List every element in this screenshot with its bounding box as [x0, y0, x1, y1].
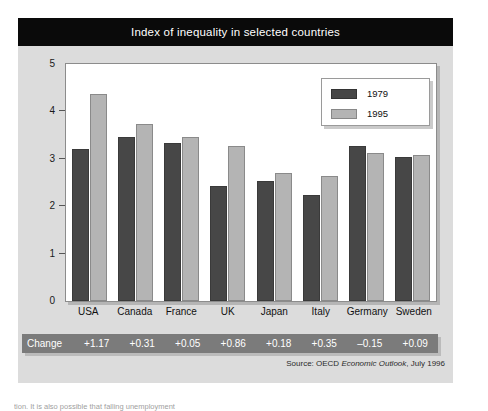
bar-uk-1979	[210, 186, 227, 301]
legend-entry: 1979	[331, 85, 429, 102]
y-axis-tick-label: 3	[49, 152, 55, 163]
bar-japan-1979	[257, 181, 274, 301]
change-row-label: Change	[22, 338, 74, 349]
bar-france-1995	[182, 137, 199, 301]
x-axis-label: USA	[67, 306, 109, 317]
body-text-fragment: tion. It is also possible that falling u…	[14, 402, 434, 411]
change-value: +1.17	[76, 338, 118, 349]
x-axis-labels: USACanadaFranceUKJapanItalyGermanySweden	[65, 306, 437, 326]
plot-wrapper: 012345 USACanadaFranceUKJapanItalyGerman…	[18, 46, 453, 346]
x-axis-label: Canada	[114, 306, 156, 317]
bar-germany-1979	[349, 146, 366, 301]
change-value: +0.35	[303, 338, 345, 349]
chart-legend: 19791995	[321, 78, 430, 126]
x-axis-label: Germany	[346, 306, 388, 317]
y-axis: 012345	[18, 46, 65, 319]
bar-italy-1979	[303, 195, 320, 301]
y-axis-tick-label: 0	[49, 295, 55, 306]
change-value: +0.86	[212, 338, 254, 349]
change-value: +0.09	[394, 338, 436, 349]
legend-label: 1995	[367, 108, 388, 119]
bar-sweden-1979	[395, 157, 412, 301]
chart-title-bar: Index of inequality in selected countrie…	[18, 18, 453, 46]
bar-uk-1995	[228, 146, 245, 301]
bar-italy-1995	[321, 176, 338, 301]
page-title: Index of inequality in selected countrie…	[131, 26, 340, 38]
source-publication: Economic Outlook	[341, 359, 406, 368]
y-axis-tick-label: 2	[49, 200, 55, 211]
change-value: +0.31	[121, 338, 163, 349]
change-row: Change +1.17+0.31+0.05+0.86+0.18+0.35–0.…	[22, 334, 438, 353]
change-value: –0.15	[349, 338, 391, 349]
x-axis-label: France	[160, 306, 202, 317]
bar-group	[257, 64, 292, 301]
bar-group	[118, 64, 153, 301]
bar-canada-1995	[136, 124, 153, 301]
legend-swatch-icon	[331, 89, 357, 99]
y-axis-tick-label: 5	[49, 58, 55, 69]
bar-canada-1979	[118, 137, 135, 301]
x-axis-label: Sweden	[393, 306, 435, 317]
bar-japan-1995	[275, 173, 292, 301]
x-axis-label: UK	[207, 306, 249, 317]
change-value: +0.05	[167, 338, 209, 349]
x-axis-label: Italy	[300, 306, 342, 317]
change-row-values: +1.17+0.31+0.05+0.86+0.18+0.35–0.15+0.09	[74, 338, 438, 349]
legend-swatch-icon	[331, 109, 357, 119]
source-suffix: , July 1996	[406, 359, 445, 368]
source-prefix: Source: OECD	[286, 359, 341, 368]
chart-figure: Index of inequality in selected countrie…	[18, 18, 453, 383]
x-axis-label: Japan	[253, 306, 295, 317]
bar-group	[164, 64, 199, 301]
bar-group	[210, 64, 245, 301]
bar-france-1979	[164, 143, 181, 301]
change-value: +0.18	[258, 338, 300, 349]
bar-sweden-1995	[413, 155, 430, 301]
y-axis-tick-label: 4	[49, 105, 55, 116]
source-note: Source: OECD Economic Outlook, July 1996	[286, 359, 445, 368]
bar-usa-1995	[90, 94, 107, 301]
legend-label: 1979	[367, 88, 388, 99]
bar-usa-1979	[72, 149, 89, 301]
bar-germany-1995	[367, 153, 384, 301]
y-axis-tick-label: 1	[49, 247, 55, 258]
legend-entry: 1995	[331, 105, 429, 122]
bar-group	[72, 64, 107, 301]
